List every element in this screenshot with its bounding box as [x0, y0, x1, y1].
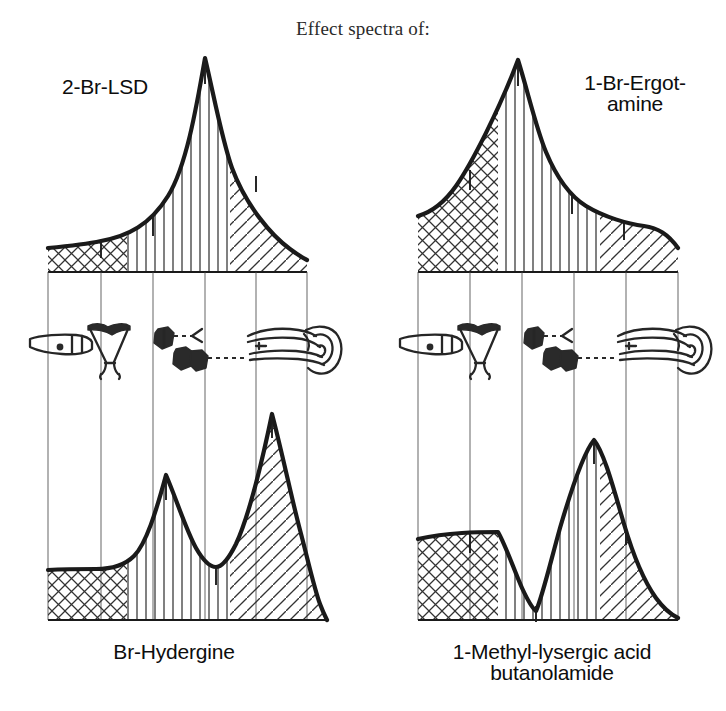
panel-bottom-right [418, 400, 680, 622]
region-diagonal [230, 40, 310, 272]
gridlines-top-left [48, 272, 307, 392]
region-crosshatch [418, 400, 498, 620]
uterus-icon [88, 324, 130, 379]
panel-bottom-left-fill [48, 400, 327, 620]
blood-vessel-icon [400, 335, 462, 355]
panel-label-bottom-left: Br-Hydergine [0, 641, 348, 662]
gridlines-top-right [418, 272, 678, 392]
region-vertical [498, 400, 600, 620]
receptor-upper-icon [154, 327, 202, 349]
receptor-lower-icon [543, 347, 614, 371]
axis-icon-band-left [30, 324, 341, 379]
uterus-icon [458, 324, 500, 379]
panel-label-top-left: 2-Br-LSD [62, 76, 148, 97]
region-crosshatch [418, 40, 498, 272]
brain-ear-head-icon [248, 327, 341, 374]
brain-ear-head-icon [618, 327, 711, 374]
region-diagonal [600, 400, 680, 620]
panel-label-bottom-right: 1-Methyl-lysergic acid butanolamide [378, 641, 726, 684]
region-crosshatch [48, 400, 127, 620]
figure-title: Effect spectra of: [0, 18, 726, 40]
panel-label-top-right: 1-Br-Ergot- amine [560, 72, 710, 115]
panel-bottom-right-fill [418, 400, 680, 620]
panel-bottom-left [48, 400, 327, 620]
axis-icon-band-right [400, 324, 711, 379]
blood-vessel-icon [30, 335, 92, 355]
effect-spectra-figure: Effect spectra of: 2-Br-LSD 1-Br-Ergot- … [0, 0, 726, 711]
receptor-upper-icon [524, 327, 572, 349]
receptor-lower-icon [173, 347, 244, 371]
